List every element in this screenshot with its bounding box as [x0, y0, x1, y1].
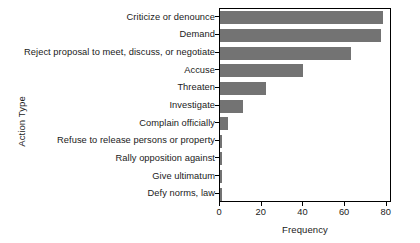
bar	[220, 188, 222, 201]
x-axis-tick-label: 20	[241, 207, 281, 217]
bar	[220, 100, 243, 113]
x-axis-tick-mark	[344, 202, 345, 206]
y-axis-tick-label: Demand	[180, 28, 215, 40]
x-axis-tick-label: 60	[324, 207, 364, 217]
bar	[220, 152, 222, 165]
x-axis-tick-label: 0	[199, 207, 239, 217]
x-axis-tick-mark	[261, 202, 262, 206]
bar	[220, 135, 222, 148]
x-axis-tick-mark	[219, 202, 220, 206]
y-axis-tick-label: Give ultimatum	[152, 170, 215, 182]
bar	[220, 11, 383, 24]
y-axis-tick-label: Threaten	[177, 81, 215, 93]
x-axis-title: Frequency	[219, 224, 391, 235]
bar	[220, 170, 222, 183]
x-axis-tick-label: 80	[366, 207, 406, 217]
x-axis-tick-mark	[386, 202, 387, 206]
bar-chart: Action Type Criticize or denounceDemandR…	[0, 0, 420, 243]
y-axis-tick-label: Criticize or denounce	[127, 11, 215, 23]
y-axis-tick-labels: Criticize or denounceDemandReject propos…	[0, 8, 215, 202]
y-axis-tick-label: Reject proposal to meet, discuss, or neg…	[24, 46, 215, 58]
y-axis-tick-label: Refuse to release persons or property	[57, 134, 215, 146]
x-axis-tick-mark	[302, 202, 303, 206]
y-axis-tick-label: Complain officially	[139, 117, 215, 129]
bar	[220, 64, 303, 77]
y-axis-tick-label: Rally opposition against	[116, 152, 215, 164]
y-axis-tick-label: Investigate	[169, 99, 215, 111]
y-axis-tick-label: Defy norms, law	[148, 187, 215, 199]
bar	[220, 29, 381, 42]
y-axis-tick-label: Accuse	[184, 64, 215, 76]
bar	[220, 82, 266, 95]
plot-area	[219, 8, 391, 202]
x-axis-tick-label: 40	[282, 207, 322, 217]
bar	[220, 47, 351, 60]
bar	[220, 117, 228, 130]
bar-series	[220, 9, 390, 201]
